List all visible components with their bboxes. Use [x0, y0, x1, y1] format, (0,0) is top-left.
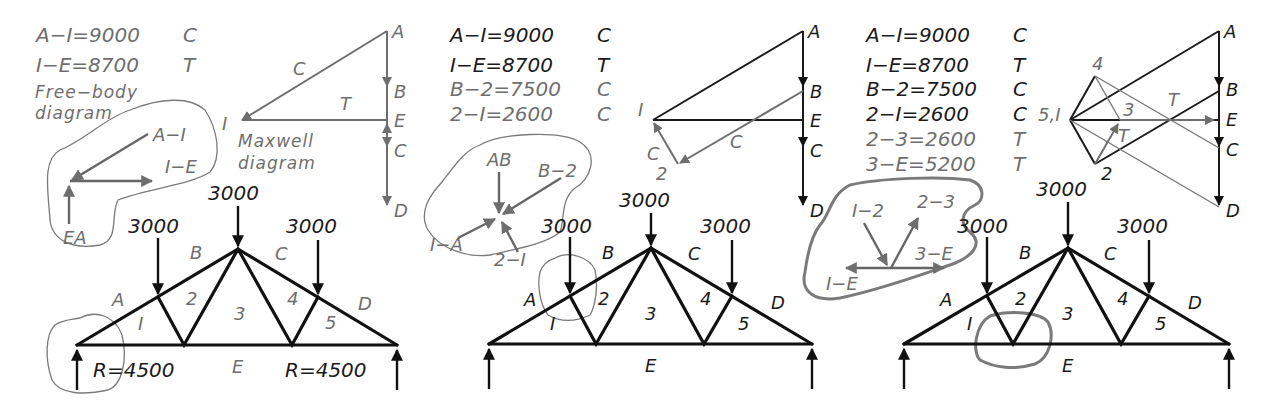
free-body-diagram: AB B−2 I−A 2−I	[424, 134, 591, 270]
panel-step-3: A−I=9000 C I−E=8700 T B−2=7500 C 2−I=260…	[804, 21, 1240, 389]
panel-label: 2	[598, 288, 609, 309]
result-type: T	[1013, 127, 1027, 151]
panel-label: 2	[1015, 288, 1026, 309]
maxwell-point-label: E	[394, 110, 406, 131]
force-type-mark: C	[293, 58, 306, 79]
load-label: 3000	[286, 214, 337, 238]
free-body-caption: diagram	[35, 103, 113, 123]
result-type: C	[597, 23, 611, 47]
free-body-caption: Free−body	[35, 82, 138, 102]
truss-analysis-figure: A−I=9000 C I−E=8700 T Free−body diagram …	[0, 0, 1270, 416]
panel-label: 4	[1117, 288, 1128, 309]
load-label: 3000	[957, 214, 1008, 238]
load-label: 3000	[1036, 177, 1087, 201]
force-type-mark: T	[340, 93, 353, 114]
result-type: T	[1013, 152, 1027, 176]
results-list: A−I=9000 C I−E=8700 T B−2=7500 C 2−I=260…	[864, 23, 1027, 176]
panel-label: 5	[738, 313, 749, 334]
maxwell-point-label: B	[394, 81, 406, 102]
space-label: C	[1104, 243, 1117, 264]
force-type-mark: C	[647, 143, 660, 164]
fb-label: I−E	[165, 156, 197, 177]
panel-label: 4	[700, 288, 711, 309]
result-value: A−I=9000	[34, 23, 140, 47]
force-type-mark: T	[1168, 89, 1181, 110]
maxwell-point-label: 2	[656, 163, 667, 184]
results-list: A−I=9000 C I−E=8700 T Free−body diagram	[34, 23, 197, 123]
load-label: 3000	[128, 214, 179, 238]
fb-label: A−I	[152, 124, 186, 145]
space-label: A	[939, 289, 952, 310]
fb-label: I−A	[430, 234, 463, 255]
space-label: B	[602, 242, 614, 263]
result-value: I−E=8700	[36, 53, 139, 77]
maxwell-point-label: A	[807, 21, 820, 42]
result-value: 2−I=2600	[450, 102, 553, 126]
panel-label: 3	[645, 303, 656, 324]
maxwell-point-label: D	[394, 200, 408, 221]
space-label: A	[523, 289, 536, 310]
space-label: E	[1062, 355, 1074, 376]
result-value: 3−E=5200	[866, 152, 976, 176]
maxwell-point-label: 5,I	[1038, 104, 1060, 125]
maxwell-point-label: 3	[1123, 99, 1134, 120]
result-value: B−2=7500	[450, 77, 561, 101]
result-value: 2−I=2600	[866, 102, 969, 126]
maxwell-point-label: C	[810, 140, 823, 161]
space-label: D	[771, 292, 785, 313]
panel-label: 5	[325, 312, 336, 333]
panel-label: I	[550, 313, 555, 334]
maxwell-point-label: A	[391, 21, 404, 42]
panel-label: 2	[186, 288, 197, 309]
truss-drawing: 3000 3000 3000 R=4500 R=4500 A B C D E I…	[47, 181, 397, 393]
maxwell-point-label: I	[638, 99, 643, 120]
maxwell-point-label: B	[1226, 79, 1238, 100]
maxwell-caption: Maxwell	[238, 131, 314, 151]
panel-label: I	[138, 313, 143, 334]
reaction-label: R=4500	[93, 358, 175, 382]
space-label: E	[232, 356, 244, 377]
panel-label: I	[967, 313, 972, 334]
fb-label: B−2	[538, 160, 577, 181]
result-type: C	[183, 23, 197, 47]
result-value: B−2=7500	[866, 77, 977, 101]
fb-label: 2−3	[917, 191, 955, 212]
panel-label: 3	[234, 303, 245, 324]
result-value: A−I=9000	[448, 23, 554, 47]
result-value: I−E=8700	[866, 53, 969, 77]
maxwell-point-label: 2	[1101, 163, 1112, 184]
fb-label: 2−I	[494, 249, 526, 270]
maxwell-point-label: 4	[1092, 53, 1103, 74]
maxwell-point-label: C	[394, 140, 407, 161]
maxwell-point-label: C	[1226, 139, 1239, 160]
maxwell-point-label: I	[222, 113, 227, 134]
panel-label: 4	[287, 288, 298, 309]
load-label: 3000	[619, 188, 670, 212]
result-value: I−E=8700	[450, 53, 553, 77]
space-label: B	[1019, 242, 1031, 263]
load-label: 3000	[208, 181, 259, 205]
result-type: T	[1013, 53, 1027, 77]
maxwell-point-label: D	[1226, 200, 1240, 221]
result-type: C	[597, 77, 611, 101]
fb-label: AB	[486, 149, 512, 170]
panel-step-1: A−I=9000 C I−E=8700 T Free−body diagram …	[34, 21, 408, 393]
result-type: C	[1013, 23, 1027, 47]
result-type: C	[597, 102, 611, 126]
result-type: T	[597, 53, 611, 77]
result-value: 2−3=2600	[866, 127, 976, 151]
maxwell-point-label: D	[810, 200, 824, 221]
space-label: D	[1188, 292, 1202, 313]
fb-label: 3−E	[915, 243, 954, 264]
space-label: B	[190, 242, 202, 263]
free-body-diagram: I−2 2−3 3−E I−E	[804, 178, 982, 299]
space-label: C	[688, 243, 701, 264]
fb-label: EA	[63, 227, 87, 248]
truss-drawing: 3000 3000 3000 A B C D E I 2 3 4 5	[489, 188, 812, 389]
maxwell-caption: diagram	[238, 153, 316, 173]
maxwell-point-label: B	[810, 81, 822, 102]
panel-label: 5	[1155, 313, 1166, 334]
load-label: 3000	[541, 214, 592, 238]
space-label: D	[358, 293, 372, 314]
maxwell-point-label: A	[1223, 21, 1236, 42]
